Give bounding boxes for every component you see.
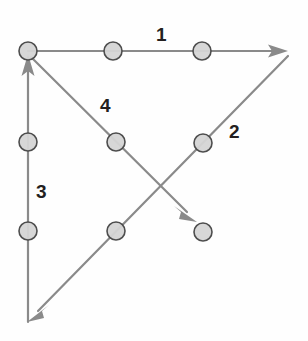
node-top-mid-left (104, 42, 122, 60)
vector-1-group (28, 45, 288, 58)
node-group (19, 42, 212, 241)
vector-label-2: 2 (229, 122, 240, 141)
node-left-lower (19, 222, 37, 240)
vector-2-line (38, 56, 288, 311)
vector-label-3: 3 (36, 182, 47, 201)
node-top-mid-right (193, 42, 211, 60)
vector-2-arrowhead (27, 305, 49, 322)
vector-3-group (22, 54, 35, 322)
vector-diagram-svg (0, 0, 308, 341)
vector-label-4: 4 (100, 96, 111, 115)
node-origin (19, 42, 37, 60)
vector-4-arrowhead (174, 206, 197, 222)
vector-label-1: 1 (156, 25, 167, 44)
node-diag2-upper (194, 134, 212, 152)
vector-2-group (27, 56, 288, 322)
vector-4-line (31, 57, 187, 212)
node-vector4-tip (194, 223, 212, 241)
diagram-canvas: 1 2 3 4 (0, 0, 308, 341)
node-diag2-lower (107, 222, 125, 240)
node-left-upper (19, 133, 37, 151)
node-diag4-mid (107, 133, 125, 151)
